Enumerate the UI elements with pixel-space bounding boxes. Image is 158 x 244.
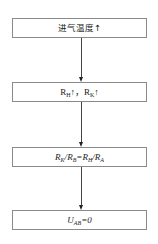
- separator: ，: [75, 88, 84, 97]
- node-intake-temperature: 进气温度↑: [12, 18, 147, 38]
- rh-symbol: RH: [60, 88, 70, 97]
- connector-line-3: [81, 167, 82, 205]
- node-output-voltage-zero: UAB=0: [12, 210, 147, 230]
- node-resistance-increase: RH↑，RK↑: [12, 82, 147, 102]
- connector-line-2: [81, 102, 82, 142]
- equation: UAB=0: [67, 216, 91, 225]
- rk-symbol: RK: [84, 88, 94, 97]
- up-arrow-icon: ↑: [94, 24, 101, 33]
- connector-line-1: [81, 38, 82, 77]
- node-label: 进气温度: [58, 24, 94, 33]
- equation: RK/RB=RH/RA: [55, 153, 104, 162]
- node-bridge-balance-equation: RK/RB=RH/RA: [12, 147, 147, 167]
- up-arrow-icon: ↑: [94, 88, 99, 97]
